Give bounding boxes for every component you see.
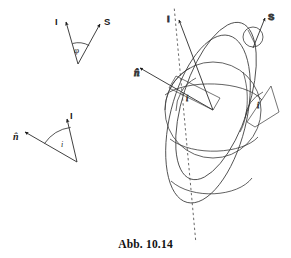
i-angle-arc <box>45 127 71 143</box>
equator-band-bottom <box>170 137 258 151</box>
figure-caption: Abb. 10.14 <box>0 238 291 250</box>
main-angle-label-right: i <box>257 101 259 110</box>
phi-label-i: I <box>55 16 58 27</box>
main-angle-label-left: i <box>186 94 188 103</box>
i-vector-i-arrow <box>67 119 77 162</box>
main-label-s: S <box>268 11 274 22</box>
phi-vector-s-arrow <box>78 24 100 64</box>
rotation-axis-dashed <box>171 9 199 243</box>
figure-canvas: I S φ n̂ I i <box>0 0 291 258</box>
main-vector-i-arrow <box>179 20 213 110</box>
node-circle-chord <box>248 30 256 46</box>
main-label-i: I <box>167 13 170 24</box>
i-angle-label: i <box>61 140 63 149</box>
phi-label-s: S <box>104 16 110 27</box>
inset-angle-i: n̂ I i <box>13 110 77 162</box>
main-sphere-diagram: I S n̂ i i <box>134 9 279 243</box>
orbit-ring-inner <box>150 26 265 211</box>
main-label-nhat: n̂ <box>134 67 140 78</box>
phi-angle-label: φ <box>74 45 79 55</box>
inset-angle-phi: I S φ <box>55 16 110 64</box>
i-label-nhat: n̂ <box>13 131 19 142</box>
lower-band <box>171 178 252 194</box>
orbit-ring-outer <box>159 13 272 189</box>
figure-page: I S φ n̂ I i <box>0 0 291 258</box>
i-label-i: I <box>70 110 73 121</box>
